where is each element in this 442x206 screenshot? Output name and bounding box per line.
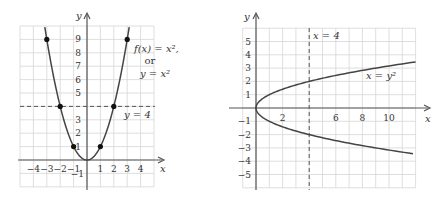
y-tick-label: 4 (245, 50, 251, 60)
y-tick-label: 1 (75, 142, 81, 152)
y-tick-label: −1 (71, 169, 84, 179)
y-tick-label: 2 (75, 128, 81, 138)
y-tick-label: 7 (75, 61, 81, 71)
left-y-axis-label: y (75, 10, 82, 21)
x-tick-label: 3 (124, 164, 130, 174)
data-point (125, 37, 130, 42)
x-tick-label: 2 (111, 164, 117, 174)
graphs-canvas: −4−3−2−1123412356789−1 y x f(x) = x², or… (0, 0, 442, 206)
y-tick-label: −3 (238, 143, 252, 153)
x-tick-label: 1 (98, 164, 104, 174)
x-tick-label: 8 (360, 113, 366, 123)
y-tick-label: 5 (245, 37, 251, 47)
y-tick-label: 1 (245, 90, 251, 100)
data-point (111, 104, 116, 109)
y-tick-label: 3 (245, 63, 251, 73)
right-y-axis-label: y (243, 11, 250, 22)
right-curve-label: x = y² (366, 70, 396, 81)
y-tick-label: 2 (245, 76, 251, 86)
y-tick-label: 6 (75, 75, 81, 85)
x-tick-label: −3 (40, 164, 54, 174)
data-point (98, 144, 103, 149)
left-curve-label-3: y = x² (139, 68, 170, 79)
y-tick-label: 3 (75, 115, 81, 125)
left-x-axis-label: x (160, 163, 166, 174)
y-tick-label: 5 (75, 88, 81, 98)
right-x-axis-label: x (425, 113, 431, 124)
x-tick-label: 2 (280, 113, 286, 123)
left-curve-label-2: or (145, 55, 156, 66)
data-point (44, 37, 49, 42)
y-tick-label: 8 (75, 48, 81, 58)
x-tick-label: −2 (54, 164, 67, 174)
y-tick-label: −1 (238, 116, 251, 126)
right-graph: 2681012345−1−2−3−4−5 y x x = y² x = 4 (229, 11, 431, 190)
x-tick-label: 6 (333, 113, 339, 123)
left-graph: −4−3−2−1123412356789−1 y x f(x) = x², or… (18, 10, 179, 190)
y-tick-label: −2 (238, 130, 251, 140)
x-tick-label: 10 (383, 113, 395, 123)
y-tick-label: −5 (238, 170, 252, 180)
y-tick-label: 9 (75, 34, 81, 44)
y-tick-label: −4 (238, 156, 252, 166)
left-curve-label-1: f(x) = x², (133, 43, 179, 54)
right-dashed-label: x = 4 (313, 30, 340, 41)
left-dashed-label: y = 4 (123, 109, 151, 120)
x-tick-label: 4 (138, 164, 144, 174)
x-tick-label: −4 (27, 164, 41, 174)
data-point (58, 104, 63, 109)
